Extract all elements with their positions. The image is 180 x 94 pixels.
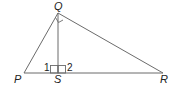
label-p: P xyxy=(14,73,22,85)
angle-label-2: 2 xyxy=(67,62,73,73)
right-angle-mark-s-left xyxy=(51,66,59,74)
label-s: S xyxy=(54,73,62,85)
right-angle-mark-q xyxy=(56,18,64,23)
side-qr xyxy=(58,13,163,73)
angle-label-1: 1 xyxy=(44,62,50,73)
label-r: R xyxy=(160,73,168,85)
triangle-diagram: Q P S R 1 2 xyxy=(0,0,180,94)
side-pq xyxy=(24,13,58,73)
right-angle-mark-s-right xyxy=(58,66,66,74)
label-q: Q xyxy=(54,0,63,12)
